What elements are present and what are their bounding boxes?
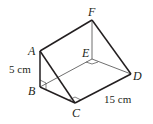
vertex-label-A: A: [27, 44, 36, 58]
thick-edges: [40, 20, 131, 103]
dimension-label-CD: 15 cm: [104, 93, 132, 105]
vertex-label-E: E: [81, 46, 90, 60]
edge-FD: [92, 20, 131, 74]
vertex-label-C: C: [72, 106, 81, 120]
vertex-label-F: F: [87, 5, 96, 19]
dimension-label-AB: 5 cm: [9, 63, 31, 75]
right-angle-E-icon: [86, 62, 98, 64]
vertex-label-B: B: [28, 84, 36, 98]
triangular-prism-diagram: A B C D E F 5 cm 15 cm: [0, 0, 153, 124]
vertex-label-D: D: [132, 69, 142, 83]
